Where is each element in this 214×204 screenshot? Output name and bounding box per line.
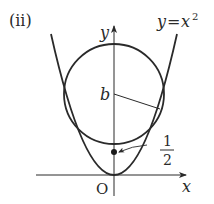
focus-point bbox=[111, 149, 117, 155]
fraction-numerator: 1 bbox=[163, 133, 172, 149]
center-label-b: b bbox=[100, 85, 110, 104]
fraction-one-half: 1 2 bbox=[160, 133, 174, 168]
curve-label-y: y bbox=[156, 12, 167, 31]
x-axis-label: x bbox=[182, 177, 191, 196]
radius-line bbox=[114, 94, 160, 109]
origin-label: O bbox=[96, 180, 108, 198]
curve-label-x: x bbox=[181, 12, 190, 31]
panel-label: (ii) bbox=[9, 11, 32, 30]
fraction-denominator: 2 bbox=[163, 152, 172, 168]
curve-label-exponent: 2 bbox=[192, 11, 198, 22]
y-axis-label: y bbox=[99, 23, 110, 42]
parabola-circle-diagram: (ii) y = x 2 y x O b 1 2 bbox=[0, 0, 214, 204]
curve-label-equals: = bbox=[167, 12, 180, 31]
